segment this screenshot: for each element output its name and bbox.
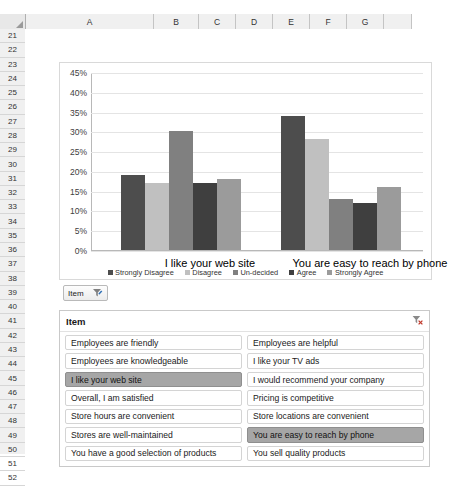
row-header-39[interactable]: 39: [0, 286, 25, 300]
column-header-filler: [384, 14, 412, 29]
bar-slot: [169, 72, 193, 250]
column-header-d[interactable]: D: [236, 14, 273, 29]
chart-bar[interactable]: [353, 203, 377, 250]
y-axis-tick-label: 35%: [70, 108, 87, 118]
column-header-b[interactable]: B: [154, 14, 199, 29]
slicer-item[interactable]: Stores are well-maintained: [65, 427, 242, 442]
slicer-item[interactable]: Employees are friendly: [65, 335, 242, 350]
legend-swatch: [233, 270, 238, 275]
slicer-item[interactable]: I like your web site: [65, 372, 242, 387]
row-header-51[interactable]: 51: [0, 457, 25, 471]
legend-swatch: [289, 270, 294, 275]
column-header-e[interactable]: E: [273, 14, 310, 29]
row-header-29[interactable]: 29: [0, 143, 25, 157]
chart-bar[interactable]: [193, 183, 217, 250]
chart-bar[interactable]: [169, 131, 193, 250]
chart-bar[interactable]: [121, 175, 145, 250]
row-header-31[interactable]: 31: [0, 172, 25, 186]
row-header-45[interactable]: 45: [0, 371, 25, 385]
legend-label: Agree: [297, 268, 317, 277]
slicer-item[interactable]: You have a good selection of products: [65, 446, 242, 461]
clear-filter-icon[interactable]: [412, 312, 423, 330]
column-header-f[interactable]: F: [310, 14, 347, 29]
row-header-30[interactable]: 30: [0, 157, 25, 171]
legend-label: Strongly Disagree: [115, 268, 174, 277]
slicer-item[interactable]: Employees are helpful: [247, 335, 424, 350]
row-header-33[interactable]: 33: [0, 200, 25, 214]
row-header-26[interactable]: 26: [0, 100, 25, 114]
legend-item: Strongly Agree: [327, 268, 383, 277]
row-header-21[interactable]: 21: [0, 29, 25, 43]
slicer-item-list: Employees are friendlyEmployees are know…: [65, 335, 424, 461]
row-header-43[interactable]: 43: [0, 343, 25, 357]
row-header-column: 2122232425262728293031323334353637383940…: [0, 29, 26, 454]
item-slicer-panel[interactable]: Item Employees are friendlyEmployees are…: [59, 310, 430, 467]
row-header-27[interactable]: 27: [0, 115, 25, 129]
slicer-item[interactable]: Store hours are convenient: [65, 409, 242, 424]
row-header-49[interactable]: 49: [0, 428, 25, 442]
select-all-triangle-icon[interactable]: [0, 14, 26, 29]
slicer-item[interactable]: Employees are knowledgeable: [65, 353, 242, 368]
slicer-item[interactable]: I like your TV ads: [247, 353, 424, 368]
row-header-44[interactable]: 44: [0, 357, 25, 371]
legend-item: Strongly Disagree: [108, 268, 174, 277]
filter-funnel-icon[interactable]: [92, 284, 103, 302]
y-axis-tick-label: 5%: [75, 226, 87, 236]
bar-slot: [353, 72, 377, 250]
row-header-48[interactable]: 48: [0, 414, 25, 428]
y-axis-tick-label: 40%: [70, 88, 87, 98]
row-header-28[interactable]: 28: [0, 129, 25, 143]
column-header-g[interactable]: G: [347, 14, 384, 29]
slicer-column: Employees are helpfulI like your TV adsI…: [247, 335, 424, 461]
y-axis-tick-label: 45%: [70, 68, 87, 78]
bar-slot: [193, 72, 217, 250]
row-header-36[interactable]: 36: [0, 243, 25, 257]
y-axis: [91, 73, 92, 251]
chart-bar[interactable]: [217, 179, 241, 250]
row-header-23[interactable]: 23: [0, 58, 25, 72]
row-header-22[interactable]: 22: [0, 43, 25, 57]
slicer-item[interactable]: You sell quality products: [247, 446, 424, 461]
y-axis-tick-label: 30%: [70, 127, 87, 137]
row-header-25[interactable]: 25: [0, 86, 25, 100]
row-header-47[interactable]: 47: [0, 400, 25, 414]
legend-label: Disagree: [192, 268, 222, 277]
slicer-item[interactable]: You are easy to reach by phone: [247, 427, 424, 442]
column-header-a[interactable]: A: [26, 14, 154, 29]
slicer-column: Employees are friendlyEmployees are know…: [65, 335, 242, 461]
row-header-41[interactable]: 41: [0, 314, 25, 328]
row-header-40[interactable]: 40: [0, 300, 25, 314]
slicer-item[interactable]: Overall, I am satisfied: [65, 390, 242, 405]
legend-swatch: [327, 270, 332, 275]
chart-bar[interactable]: [145, 183, 169, 250]
item-filter-button[interactable]: Item: [63, 285, 108, 301]
survey-bar-chart[interactable]: 0%5%10%15%20%25%30%35%40%45% I like your…: [59, 62, 432, 280]
row-header-42[interactable]: 42: [0, 329, 25, 343]
column-header-c[interactable]: C: [199, 14, 236, 29]
bar-group: [121, 72, 241, 250]
slicer-item[interactable]: Store locations are convenient: [247, 409, 424, 424]
row-header-52[interactable]: 52: [0, 471, 25, 485]
row-header-50[interactable]: 50: [0, 443, 25, 457]
row-header-46[interactable]: 46: [0, 386, 25, 400]
row-header-35[interactable]: 35: [0, 229, 25, 243]
legend-item: Agree: [289, 268, 316, 277]
chart-bar[interactable]: [281, 116, 305, 250]
row-header-34[interactable]: 34: [0, 214, 25, 228]
bar-slot: [281, 72, 305, 250]
chart-bar[interactable]: [377, 187, 401, 250]
chart-bar[interactable]: [329, 199, 353, 250]
chart-bar[interactable]: [305, 139, 329, 250]
row-header-38[interactable]: 38: [0, 272, 25, 286]
row-header-24[interactable]: 24: [0, 72, 25, 86]
slicer-item[interactable]: Pricing is competitive: [247, 390, 424, 405]
row-header-32[interactable]: 32: [0, 186, 25, 200]
legend-item: Disagree: [185, 268, 222, 277]
row-header-37[interactable]: 37: [0, 257, 25, 271]
bar-slot: [329, 72, 353, 250]
column-header-row: ABCDEFG: [0, 14, 412, 30]
bar-slot: [305, 72, 329, 250]
legend-swatch: [108, 270, 113, 275]
slicer-item[interactable]: I would recommend your company: [247, 372, 424, 387]
